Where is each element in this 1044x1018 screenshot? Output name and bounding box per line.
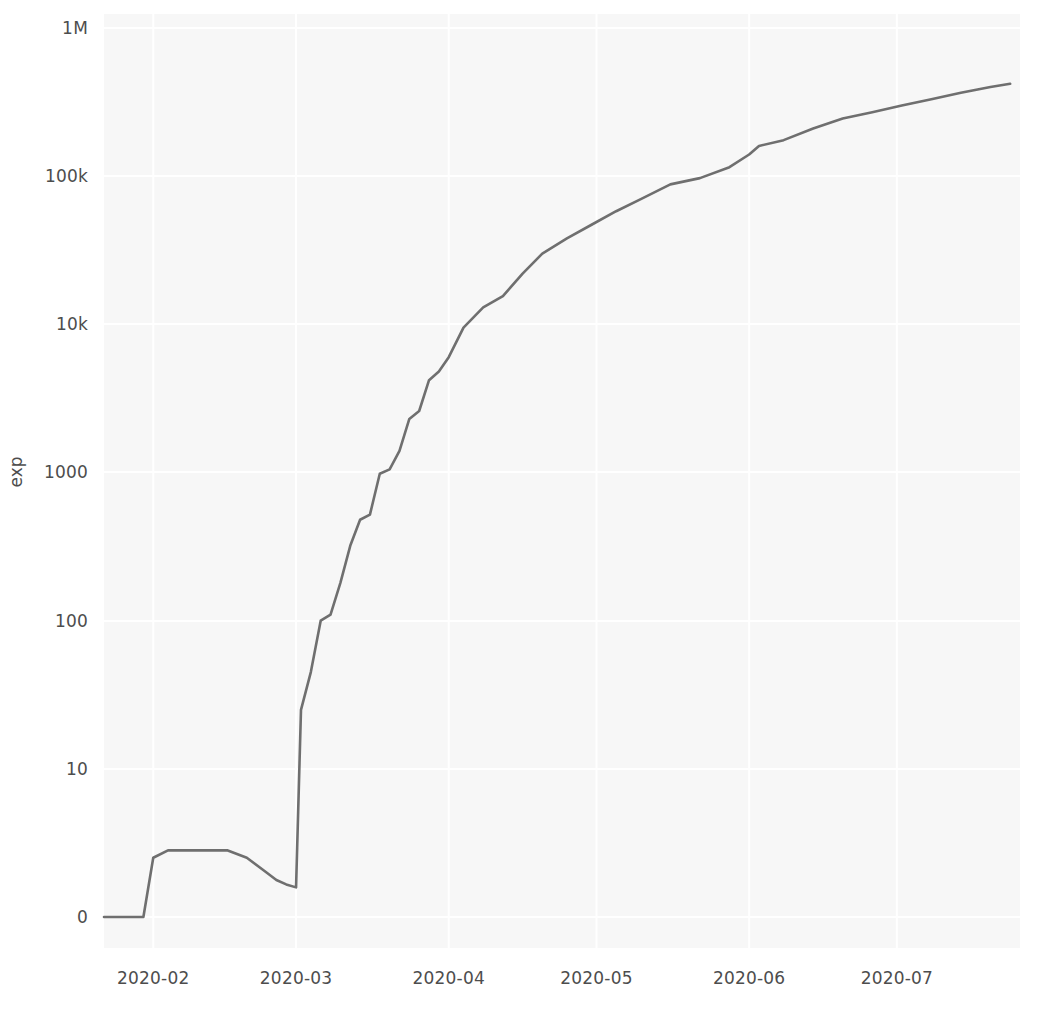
y-tick-label: 10 bbox=[0, 759, 88, 779]
y-tick-label: 0 bbox=[0, 907, 88, 927]
y-tick-label: 1M bbox=[0, 18, 88, 38]
y-tick-label: 100 bbox=[0, 611, 88, 631]
x-tick-label: 2020-04 bbox=[413, 968, 485, 988]
x-tick-label: 2020-07 bbox=[861, 968, 933, 988]
line-chart-plot bbox=[0, 0, 1044, 1018]
x-tick-label: 2020-05 bbox=[560, 968, 632, 988]
x-tick-label: 2020-02 bbox=[117, 968, 189, 988]
chart-figure: 1M100k10k1000100100 2020-022020-032020-0… bbox=[0, 0, 1044, 1018]
x-tick-label: 2020-03 bbox=[260, 968, 332, 988]
y-tick-label: 10k bbox=[0, 314, 88, 334]
plot-background bbox=[104, 14, 1020, 948]
x-tick-label: 2020-06 bbox=[713, 968, 785, 988]
y-tick-label: 100k bbox=[0, 166, 88, 186]
y-axis-label: exp bbox=[6, 456, 26, 487]
